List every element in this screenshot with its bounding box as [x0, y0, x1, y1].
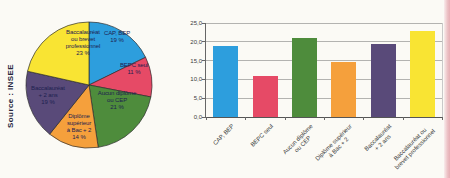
y-tick-label: 25,0	[178, 20, 202, 26]
scan-edge-strip	[444, 0, 450, 178]
x-tick	[324, 117, 325, 120]
gridline	[206, 79, 442, 80]
gridline	[206, 60, 442, 61]
gridline	[206, 41, 442, 42]
x-category-label: Baccalauréat + 2 ans	[363, 123, 398, 158]
bar-2	[253, 76, 278, 117]
y-tick	[202, 23, 206, 24]
pie-slice-label: BEPC seul 11 %	[120, 62, 148, 76]
x-tick	[285, 117, 286, 120]
gridline	[206, 23, 442, 24]
gridline	[206, 98, 442, 99]
pie-slice-label: Diplôme supérieur à Bac + 2 14 %	[67, 113, 92, 141]
y-tick-label: 15,0	[178, 58, 202, 64]
y-tick-label: 20,0	[178, 39, 202, 45]
y-tick-label: 0,0	[178, 114, 202, 120]
x-category-label: CAP, BEP	[212, 123, 236, 147]
x-category-label: Baccalauréat ou brevet professionnel	[389, 123, 437, 171]
bar-5	[371, 44, 396, 117]
pie-slice-label: Baccalauréat ou brevet professionnel 23 …	[66, 29, 100, 57]
x-tick	[442, 117, 443, 120]
bar-6	[410, 31, 435, 117]
bar-chart: 0,05,010,015,020,025,0CAP, BEPBEPC seulA…	[205, 23, 443, 118]
x-tick	[206, 117, 207, 120]
pie-slice-label: Baccalauréat + 2 ans 19 %	[31, 85, 65, 106]
y-tick-label: 10,0	[178, 76, 202, 82]
x-tick	[245, 117, 246, 120]
x-category-label: Aucun diplôme ou CEP	[281, 123, 319, 161]
bar-3	[292, 38, 317, 117]
bar-4	[331, 62, 356, 117]
x-tick	[403, 117, 404, 120]
pie-slice-label: CAP, BEP 19 %	[104, 30, 130, 44]
y-tick	[202, 79, 206, 80]
y-tick	[202, 41, 206, 42]
pie-slice-label: Aucun diplôme ou CEP 21 %	[98, 90, 136, 111]
bar-1	[213, 46, 238, 117]
source-label: Source : INSEE	[6, 64, 15, 128]
y-tick-label: 5,0	[178, 95, 202, 101]
x-category-label: BEPC seul	[249, 123, 274, 148]
x-category-label: Diplôme supérieur à Bac + 2	[314, 123, 358, 167]
x-tick	[363, 117, 364, 120]
scanned-figure: Source : INSEE CAP, BEP 19 %BEPC seul 11…	[0, 0, 450, 178]
y-tick	[202, 60, 206, 61]
y-tick	[202, 98, 206, 99]
